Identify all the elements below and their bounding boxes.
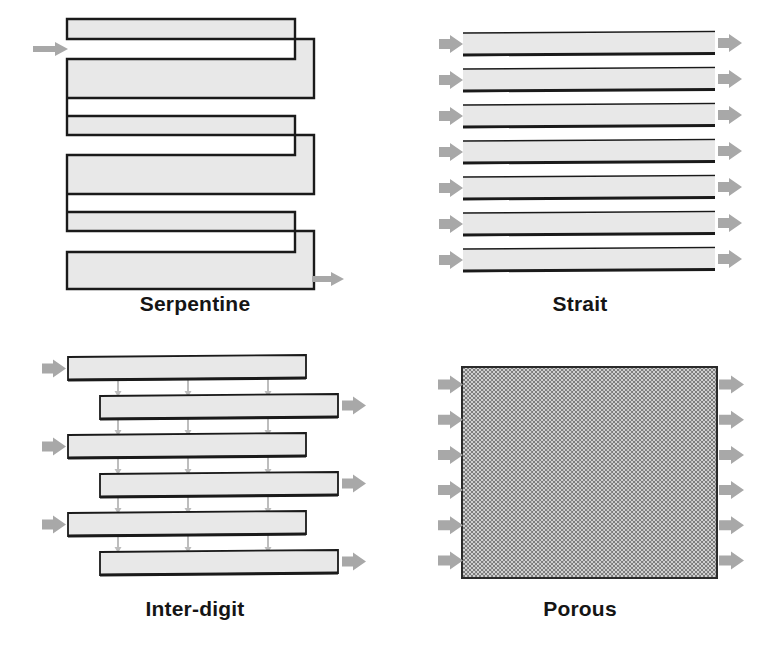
strait-inlet-arrow: [439, 179, 463, 197]
interdigit-bar: [68, 511, 306, 536]
porous-outlet-arrow: [719, 551, 744, 569]
strait-channel-fill: [463, 249, 715, 271]
strait-inlet-arrow: [439, 215, 463, 233]
interdigit-bar: [100, 550, 338, 575]
interdigit-outlet-arrow: [342, 553, 366, 571]
strait-channel-bottom-edge: [463, 234, 715, 236]
strait-inlet-arrow: [439, 71, 463, 89]
strait-channel-fill: [463, 141, 715, 163]
porous-inlet-arrow: [438, 481, 463, 499]
interdigit-outlet-arrow: [342, 397, 366, 415]
serpentine-outlet-arrow: [312, 272, 344, 286]
strait-channel-top-edge: [463, 248, 715, 250]
strait-channel-bottom-edge: [463, 90, 715, 92]
porous-outlet-arrow: [719, 411, 744, 429]
interdigitated-channel-icon: [0, 335, 390, 605]
interdigit-inlet-arrow: [42, 438, 66, 456]
porous-outlet-arrow: [719, 516, 744, 534]
strait-channel-fill: [463, 177, 715, 199]
interdigit-bar-bottom-edge: [68, 456, 306, 458]
strait-channel-fill: [463, 105, 715, 127]
strait-inlet-arrow: [439, 251, 463, 269]
serpentine-path: [67, 19, 314, 289]
interdigit-bar-bottom-edge: [68, 534, 306, 536]
strait-outlet-arrow: [718, 106, 742, 124]
strait-channel-fill: [463, 33, 715, 55]
porous-media-icon: [395, 335, 765, 605]
porous-inlet-arrow: [438, 411, 463, 429]
strait-channel-bottom-edge: [463, 162, 715, 164]
strait-inlet-arrow: [439, 107, 463, 125]
interdigit-bar: [68, 433, 306, 458]
strait-inlet-arrow: [439, 143, 463, 161]
flow-field-figure: Serpentine Strait Inter-digit: [0, 0, 765, 657]
porous-outlet-arrow: [719, 376, 744, 394]
strait-channel-bottom-edge: [463, 54, 715, 56]
panel-label-interdigit: Inter-digit: [0, 597, 390, 621]
interdigit-bar: [68, 355, 306, 380]
interdigit-bar: [100, 472, 338, 497]
interdigit-inlet-arrow: [42, 516, 66, 534]
panel-label-serpentine: Serpentine: [0, 292, 390, 316]
porous-block: [462, 367, 717, 578]
interdigit-bar-group: [68, 355, 338, 575]
parallel-channel-icon: [395, 0, 765, 300]
strait-channel-group: [463, 32, 715, 272]
porous-inlet-arrow: [438, 446, 463, 464]
interdigit-outlet-arrow: [342, 475, 366, 493]
porous-inlet-arrow: [438, 376, 463, 394]
strait-channel-top-edge: [463, 32, 715, 34]
strait-channel-top-edge: [463, 176, 715, 178]
panel-serpentine: Serpentine: [0, 0, 390, 330]
strait-channel-bottom-edge: [463, 270, 715, 272]
interdigit-bar: [100, 394, 338, 419]
interdigit-inlet-arrow: [42, 360, 66, 378]
strait-outlet-arrow: [718, 34, 742, 52]
strait-inlet-arrow: [439, 35, 463, 53]
panel-porous: Porous: [395, 335, 765, 657]
interdigit-bar-bottom-edge: [100, 495, 338, 497]
strait-channel-bottom-edge: [463, 198, 715, 200]
strait-outlet-arrow: [718, 142, 742, 160]
panel-strait: Strait: [395, 0, 765, 330]
porous-inlet-arrow: [438, 516, 463, 534]
strait-outlet-arrow: [718, 214, 742, 232]
interdigit-arrow-group: [42, 360, 366, 571]
serpentine-channel-icon: [0, 0, 390, 300]
interdigit-bar-bottom-edge: [100, 573, 338, 575]
strait-inlet-arrow-group: [439, 35, 463, 269]
strait-channel-top-edge: [463, 68, 715, 70]
strait-outlet-arrow: [718, 70, 742, 88]
strait-outlet-arrow: [718, 250, 742, 268]
strait-channel-fill: [463, 213, 715, 235]
strait-outlet-arrow-group: [718, 34, 742, 268]
strait-channel-fill: [463, 69, 715, 91]
porous-outlet-arrow: [719, 481, 744, 499]
panel-label-porous: Porous: [395, 597, 765, 621]
porous-inlet-arrow: [438, 551, 463, 569]
serpentine-inlet-arrow: [33, 42, 68, 56]
strait-outlet-arrow: [718, 178, 742, 196]
interdigit-bar-bottom-edge: [68, 378, 306, 380]
interdigit-bar-bottom-edge: [100, 417, 338, 419]
strait-channel-top-edge: [463, 140, 715, 142]
strait-channel-top-edge: [463, 212, 715, 214]
panel-interdigit: Inter-digit: [0, 335, 390, 657]
strait-channel-bottom-edge: [463, 126, 715, 128]
porous-outlet-arrow: [719, 446, 744, 464]
panel-label-strait: Strait: [395, 292, 765, 316]
strait-channel-top-edge: [463, 104, 715, 106]
